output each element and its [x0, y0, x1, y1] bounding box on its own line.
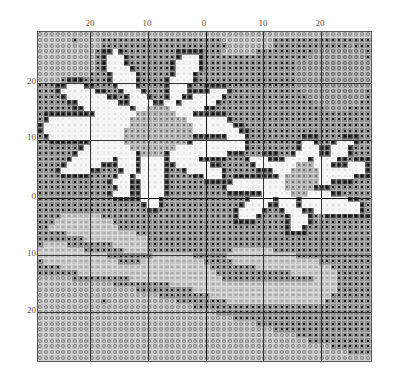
x-tick-label: 0	[202, 19, 207, 28]
stitch-cell	[365, 355, 371, 361]
gridline-horizontal	[38, 312, 371, 313]
x-tick-label: 20	[316, 19, 325, 28]
y-tick-label: 20	[22, 306, 36, 315]
y-tick-label: 10	[22, 133, 36, 142]
y-tick-label: 20	[22, 77, 36, 86]
y-tick-label: 0	[22, 192, 36, 201]
pattern-chart	[37, 31, 372, 362]
x-tick-label: 10	[259, 19, 268, 28]
x-tick-label: 10	[143, 19, 152, 28]
y-tick-label: 10	[22, 249, 36, 258]
x-tick-label: 20	[86, 19, 95, 28]
